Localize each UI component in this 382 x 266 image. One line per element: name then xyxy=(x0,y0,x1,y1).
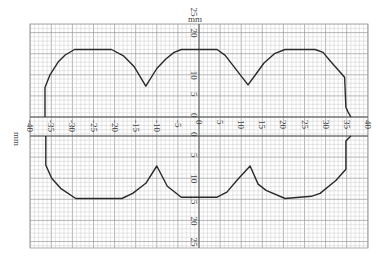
profile-chart: -40-35-30-25-20-15-10-505101520253035400… xyxy=(0,0,382,266)
svg-text:-30: -30 xyxy=(67,120,77,132)
svg-text:20: 20 xyxy=(189,216,199,226)
svg-text:-25: -25 xyxy=(89,120,99,132)
svg-text:0: 0 xyxy=(189,113,199,118)
x-axis-unit-label: mm xyxy=(188,14,202,24)
svg-text:10: 10 xyxy=(189,174,199,184)
svg-text:10: 10 xyxy=(189,71,199,81)
svg-text:25: 25 xyxy=(300,120,310,130)
svg-text:35: 35 xyxy=(342,120,352,130)
svg-text:5: 5 xyxy=(189,153,199,158)
svg-text:15: 15 xyxy=(257,120,267,130)
svg-text:-20: -20 xyxy=(110,120,120,132)
y-axis-unit-label: mm xyxy=(12,132,22,146)
svg-text:5: 5 xyxy=(215,120,225,125)
svg-text:-15: -15 xyxy=(131,120,141,132)
svg-text:0: 0 xyxy=(189,132,199,137)
svg-text:0: 0 xyxy=(194,120,204,125)
svg-text:10: 10 xyxy=(236,120,246,130)
svg-text:25: 25 xyxy=(189,238,199,248)
svg-text:-5: -5 xyxy=(173,120,183,128)
svg-text:40: 40 xyxy=(363,120,373,130)
svg-text:20: 20 xyxy=(189,29,199,38)
svg-text:30: 30 xyxy=(321,120,331,130)
svg-text:-35: -35 xyxy=(46,120,56,132)
svg-text:20: 20 xyxy=(278,120,288,130)
svg-text:-40: -40 xyxy=(25,120,35,132)
svg-text:-10: -10 xyxy=(152,120,162,132)
lower-profile-curve xyxy=(46,136,351,199)
svg-text:5: 5 xyxy=(189,92,199,97)
